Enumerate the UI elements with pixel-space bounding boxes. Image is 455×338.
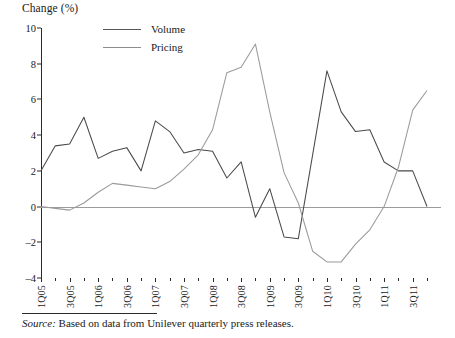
y-axis-label: 8	[31, 58, 36, 69]
source-text: Based on data from Unilever quarterly pr…	[59, 317, 294, 329]
x-axis-tick	[141, 278, 142, 281]
x-axis-label: 1Q11	[379, 285, 390, 308]
source-note: Source: Based on data from Unilever quar…	[22, 317, 294, 329]
x-axis-label: 3Q11	[408, 285, 419, 308]
x-axis-tick	[298, 278, 299, 282]
y-axis-label: 10	[26, 23, 37, 34]
y-axis-title: Change (%)	[22, 2, 78, 14]
y-axis-label: –4	[26, 273, 37, 284]
x-axis-tick	[356, 278, 357, 282]
x-axis-tick	[213, 278, 214, 282]
series-line-volume	[41, 71, 427, 239]
x-axis-label: 3Q06	[122, 285, 133, 308]
x-axis-tick	[241, 278, 242, 282]
x-axis-tick	[155, 278, 156, 282]
x-axis-tick	[112, 278, 113, 281]
x-axis-tick	[98, 278, 99, 282]
y-axis-label: 6	[31, 94, 36, 105]
x-axis-tick	[427, 278, 428, 281]
x-axis-tick	[184, 278, 185, 282]
x-axis-tick	[284, 278, 285, 281]
x-axis-label: 3Q05	[65, 285, 76, 308]
x-axis-tick	[270, 278, 271, 282]
x-axis-tick	[384, 278, 385, 282]
series-line-pricing	[41, 44, 427, 262]
y-axis-label: –2	[26, 237, 37, 248]
x-axis-label: 1Q05	[36, 285, 47, 308]
y-axis-label: 2	[31, 165, 36, 176]
x-axis-tick	[41, 278, 42, 282]
x-axis-tick	[84, 278, 85, 281]
x-axis-label: 1Q10	[322, 285, 333, 308]
x-axis-tick	[70, 278, 71, 282]
x-axis-label: 3Q10	[351, 285, 362, 308]
x-axis-tick	[398, 278, 399, 281]
source-divider	[22, 313, 157, 314]
y-axis-label: 4	[31, 130, 36, 141]
x-axis-tick	[370, 278, 371, 281]
x-axis-label: 1Q08	[208, 285, 219, 308]
y-axis-label: 0	[31, 201, 36, 212]
x-axis-label: 1Q06	[93, 285, 104, 308]
x-axis-label: 3Q08	[236, 285, 247, 308]
x-axis-label: 1Q09	[265, 285, 276, 308]
chart-container: Change (%) Volume Pricing 1086420–2–4 1Q…	[0, 0, 455, 338]
x-axis-tick	[170, 278, 171, 281]
plot-area: 1086420–2–4 1Q053Q051Q063Q061Q073Q071Q08…	[41, 28, 437, 278]
x-axis-tick	[313, 278, 314, 281]
x-axis-tick	[413, 278, 414, 282]
x-axis-tick	[255, 278, 256, 281]
x-axis-label: 3Q07	[179, 285, 190, 308]
x-axis-label: 1Q07	[150, 285, 161, 308]
x-axis-tick	[227, 278, 228, 281]
source-prefix: Source:	[22, 317, 56, 329]
x-axis-tick	[55, 278, 56, 281]
x-axis-label: 3Q09	[293, 285, 304, 308]
x-axis-tick	[198, 278, 199, 281]
x-axis-tick	[327, 278, 328, 282]
x-axis-tick	[341, 278, 342, 281]
x-axis-tick	[127, 278, 128, 282]
series-lines	[41, 28, 437, 278]
